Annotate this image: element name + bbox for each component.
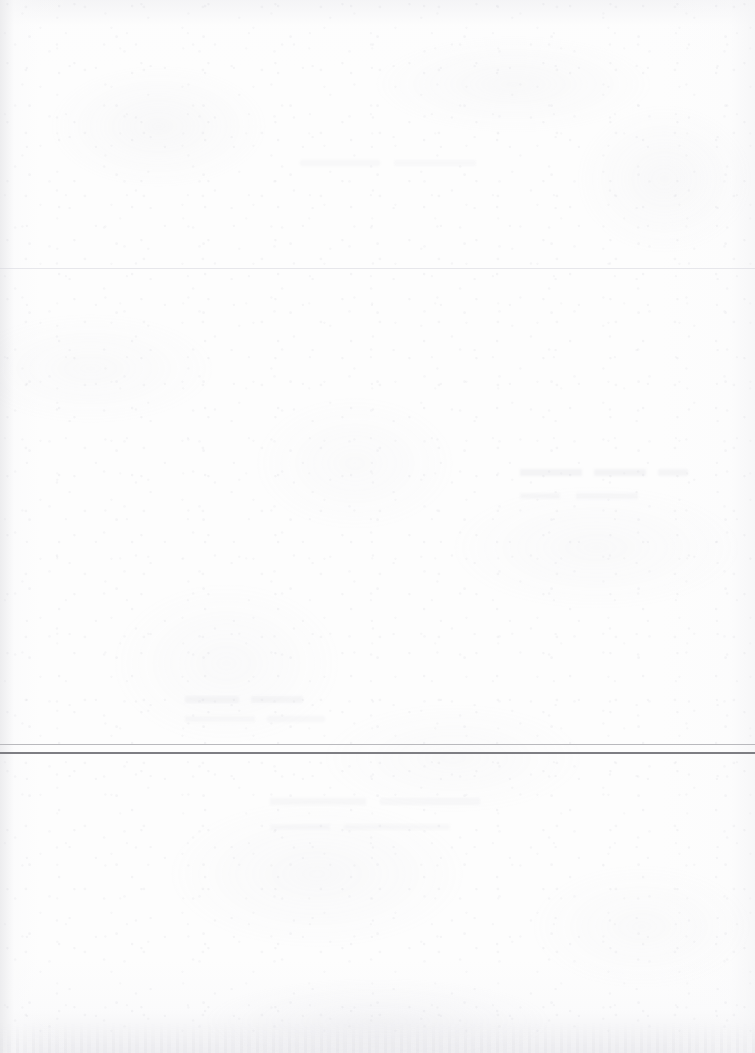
scanned-page (0, 0, 755, 1053)
scan-edge-shadow-bottom (0, 1023, 755, 1053)
lower-dark-horizontal-rule (0, 752, 755, 754)
lower-light-horizontal-rule (0, 744, 755, 745)
paper-grain-texture (0, 0, 755, 1053)
faint-upper-horizontal-rule (0, 268, 755, 269)
